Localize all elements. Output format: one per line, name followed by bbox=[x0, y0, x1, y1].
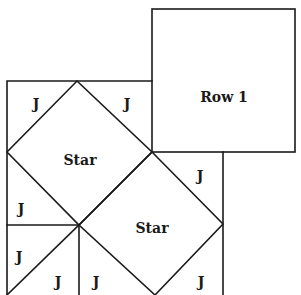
star2-label: Star bbox=[135, 220, 168, 236]
quilt-diagram bbox=[0, 0, 301, 295]
row1-block bbox=[152, 9, 295, 152]
piece-j-top-left: J bbox=[33, 96, 40, 112]
piece-j-left-lower: J bbox=[16, 249, 23, 265]
row1-label: Row 1 bbox=[200, 89, 248, 105]
piece-j-top-right: J bbox=[124, 96, 131, 112]
piece-j-bottom-b: J bbox=[93, 274, 100, 290]
star1-label: Star bbox=[63, 152, 96, 168]
piece-j-bottom-a: J bbox=[55, 274, 62, 290]
piece-j-right-upper: J bbox=[197, 168, 204, 184]
piece-j-bottom-right: J bbox=[198, 274, 205, 290]
piece-j-left-middle: J bbox=[18, 201, 25, 217]
